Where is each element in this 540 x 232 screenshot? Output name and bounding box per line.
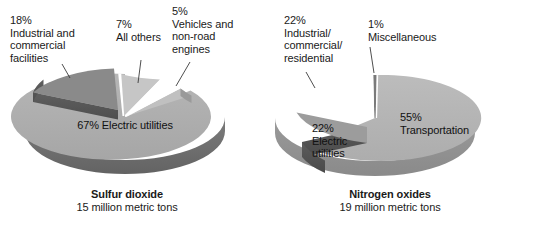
- leader-line-miscellaneous: [370, 47, 374, 73]
- callout-vehicles-nonroad-engines: 5% Vehicles and non-road engines: [172, 5, 233, 55]
- callout-industrial-commercial-residential: 22% Industrial/ commercial/ residential: [284, 14, 342, 64]
- callout-miscellaneous: 1% Miscellaneous: [368, 18, 436, 43]
- leader-line-industrial-nox: [306, 72, 315, 88]
- caption-title-nitrogen-oxides: Nitrogen oxides: [240, 188, 540, 201]
- callout-all-others: 7% All others: [116, 18, 161, 43]
- slice-miscellaneous: [372, 75, 379, 118]
- caption-sulfur-dioxide: Sulfur dioxide 15 million metric tons: [0, 188, 270, 214]
- caption-subtitle-sulfur-dioxide: 15 million metric tons: [0, 201, 270, 214]
- pie-chart-nitrogen-oxides: 22% Industrial/ commercial/ residential …: [270, 0, 540, 232]
- caption-nitrogen-oxides: Nitrogen oxides 19 million metric tons: [270, 188, 540, 214]
- leader-line-vehicles: [176, 62, 190, 86]
- leader-line-industrial: [62, 64, 70, 78]
- slice-label-electric-utilities: 67% Electric utilities: [0, 119, 250, 132]
- pie-chart-sulfur-dioxide: 18% Industrial and commercial facilities…: [0, 0, 270, 232]
- callout-industrial-commercial-facilities: 18% Industrial and commercial facilities: [10, 14, 75, 64]
- caption-subtitle-nitrogen-oxides: 19 million metric tons: [240, 201, 540, 214]
- slice-label-electric-utilities-nox: 22% Electric utilities: [312, 122, 347, 160]
- caption-title-sulfur-dioxide: Sulfur dioxide: [0, 188, 270, 201]
- slice-label-transportation: 55% Transportation: [400, 111, 469, 136]
